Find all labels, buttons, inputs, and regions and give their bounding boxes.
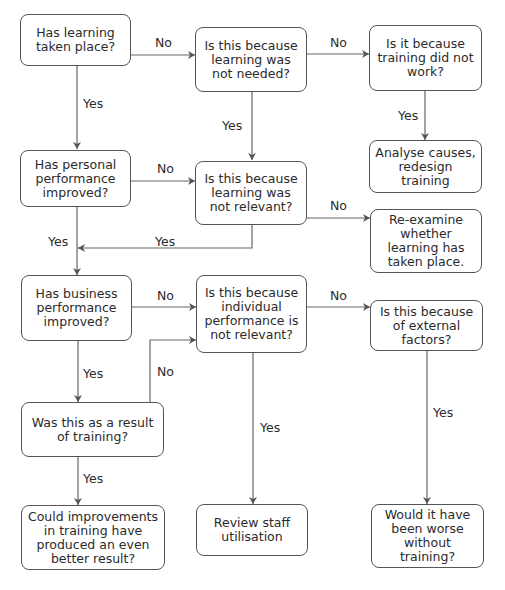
edge-label-f-e: Yes xyxy=(155,234,175,249)
node-personal-performance: Has personal performance improved? xyxy=(20,150,131,207)
edge-label-e-h: Yes xyxy=(48,234,68,249)
edge-label-a-b: No xyxy=(155,35,172,50)
edge-label-f-g: No xyxy=(330,198,347,213)
node-learning-not-relevant: Is this because learning was not relevan… xyxy=(195,161,307,225)
edge-label-i-j: No xyxy=(330,288,347,303)
node-individual-performance-not-relevant: Is this because individual performance i… xyxy=(196,275,307,353)
node-result-of-training: Was this as a result of training? xyxy=(21,402,164,457)
edge-label-b-f: Yes xyxy=(222,118,242,133)
edge-label-h-k: Yes xyxy=(83,366,103,381)
edge-label-i-m: Yes xyxy=(260,420,280,435)
node-review-staff-utilisation: Review staff utilisation xyxy=(196,504,308,556)
edge-label-b-c: No xyxy=(330,35,347,50)
edge-label-c-d: Yes xyxy=(398,108,418,123)
node-could-improvements: Could improvements in training have prod… xyxy=(21,505,165,570)
edge-label-k-i: No xyxy=(157,364,174,379)
node-learning-taken-place: Has learning taken place? xyxy=(20,14,131,66)
node-training-did-not-work: Is it because training did not work? xyxy=(369,25,482,91)
edge-label-h-i: No xyxy=(157,288,174,303)
node-re-examine: Re-examine whether learning has taken pl… xyxy=(370,209,482,273)
flowchart-canvas: Has learning taken place? Is this becaus… xyxy=(0,0,505,590)
node-analyse-causes: Analyse causes, redesign training xyxy=(369,140,482,193)
node-learning-not-needed: Is this because learning was not needed? xyxy=(195,27,307,92)
edge-label-e-f: No xyxy=(157,161,174,176)
node-business-performance: Has business performance improved? xyxy=(21,275,132,341)
edge-label-j-n: Yes xyxy=(433,405,453,420)
node-worse-without-training: Would it have been worse without trainin… xyxy=(371,504,484,568)
node-external-factors: Is this because of external factors? xyxy=(370,300,483,351)
edge-label-a-e: Yes xyxy=(83,96,103,111)
edge-label-k-l: Yes xyxy=(83,471,103,486)
